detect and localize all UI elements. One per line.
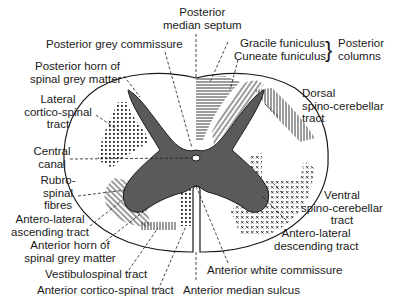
- central-canal: [192, 155, 200, 161]
- label-posterior-median-septum: Posterior median septum: [163, 6, 242, 31]
- label-anterior-horn: Anterior horn of spinal grey matter: [20, 239, 120, 264]
- label-posterior-columns: Posterior columns: [338, 37, 384, 62]
- label-anterior-white-commissure: Anterior white commissure: [207, 264, 342, 277]
- label-cuneate-funiculus: Cuneate funiculus: [234, 50, 326, 63]
- label-central-canal: Central canal: [30, 145, 74, 170]
- label-posterior-grey-commissure: Posterior grey commissure: [46, 38, 183, 51]
- label-gracile-funiculus: Gracile funiculus: [240, 37, 325, 50]
- label-anterolateral-descending: Antero-lateral descending tract: [274, 227, 358, 252]
- label-dorsal-spinocerebellar: Dorsal spino-cerebellar tract: [302, 87, 384, 125]
- label-anterior-corticospinal: Anterior cortico-spinal tract: [37, 284, 174, 297]
- label-anterolateral-ascending: Antero-lateral ascending tract: [8, 213, 92, 238]
- label-posterior-horn: Posterior horn of spinal grey matter: [30, 60, 120, 85]
- vestibulospinal-region: [140, 222, 176, 230]
- brace-posterior-columns: }: [325, 38, 332, 62]
- label-lateral-corticospinal: Lateral cortico-spinal tract: [22, 93, 94, 131]
- label-rubrospinal: Rubro- spinal fibres: [38, 174, 78, 212]
- label-ventral-spinocerebellar: Ventral spino-cerebellar tract: [294, 189, 390, 227]
- label-vestibulospinal: Vestibulospinal tract: [45, 268, 147, 281]
- label-anterior-median-sulcus: Anterior median sulcus: [183, 284, 300, 297]
